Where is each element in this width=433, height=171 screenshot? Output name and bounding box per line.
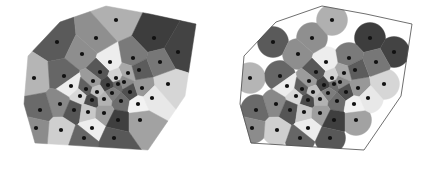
- seed-point: [82, 136, 86, 140]
- seed-point: [86, 110, 90, 114]
- seed-point: [296, 52, 300, 56]
- seed-point: [55, 40, 59, 44]
- seed-point: [278, 74, 282, 78]
- seed-point: [310, 36, 314, 40]
- seed-point: [275, 128, 279, 132]
- seed-point: [285, 84, 289, 88]
- seed-point: [392, 50, 396, 54]
- seed-point: [34, 126, 38, 130]
- seed-point: [150, 96, 154, 100]
- seed-point: [332, 82, 336, 86]
- seed-point: [116, 118, 120, 122]
- seed-point: [298, 136, 302, 140]
- seed-point: [128, 90, 132, 94]
- seed-point: [69, 84, 73, 88]
- seed-point: [302, 110, 306, 114]
- seed-point: [248, 76, 252, 80]
- seed-point: [288, 108, 292, 112]
- seed-point: [318, 111, 322, 115]
- voronoi-disks-canvas: [216, 0, 433, 171]
- seed-point: [306, 126, 310, 130]
- seed-point: [59, 128, 63, 132]
- seed-point: [158, 60, 162, 64]
- seed-point: [62, 74, 66, 78]
- seed-point: [330, 18, 334, 22]
- seed-point: [136, 102, 140, 106]
- seed-point: [324, 60, 328, 64]
- seed-point: [114, 76, 118, 80]
- seed-point: [91, 79, 95, 83]
- clipped-cell-group: [241, 6, 409, 148]
- seed-point: [354, 118, 358, 122]
- seed-point: [102, 111, 106, 115]
- seed-point: [335, 99, 339, 103]
- seed-point: [300, 87, 304, 91]
- seed-point: [131, 56, 135, 60]
- seed-point: [382, 82, 386, 86]
- seed-point: [112, 136, 116, 140]
- seed-point: [254, 108, 258, 112]
- seed-point: [342, 71, 346, 75]
- seed-point: [347, 56, 351, 60]
- seed-point: [353, 68, 357, 72]
- seed-point: [366, 96, 370, 100]
- seed-point: [80, 52, 84, 56]
- seed-point: [122, 80, 126, 84]
- seed-point: [374, 60, 378, 64]
- seed-point: [271, 40, 275, 44]
- seed-point: [98, 70, 102, 74]
- seed-point: [352, 102, 356, 106]
- clipped-voronoi-cell: [244, 117, 266, 144]
- seed-point: [294, 94, 298, 98]
- seed-point: [138, 118, 142, 122]
- seed-point: [95, 90, 99, 94]
- seed-point: [166, 82, 170, 86]
- seed-point: [338, 80, 342, 84]
- seed-point: [274, 102, 278, 106]
- seed-point: [356, 86, 360, 90]
- seed-point: [94, 36, 98, 40]
- seed-point: [330, 76, 334, 80]
- clipped-voronoi-cell: [345, 111, 372, 136]
- seed-point: [32, 76, 36, 80]
- seed-point: [152, 36, 156, 40]
- seed-point: [328, 136, 332, 140]
- seed-point: [344, 90, 348, 94]
- seed-point: [311, 90, 315, 94]
- panel-voronoi-disks: [216, 0, 433, 171]
- seed-point: [176, 50, 180, 54]
- voronoi-cell-group: [24, 6, 196, 150]
- voronoi-figure: [0, 0, 433, 171]
- seed-point: [90, 126, 94, 130]
- seed-point: [137, 68, 141, 72]
- seed-point: [322, 83, 326, 87]
- seed-point: [84, 87, 88, 91]
- voronoi-full-canvas: [0, 0, 216, 171]
- seed-point: [106, 83, 110, 87]
- seed-point: [119, 99, 123, 103]
- seed-point: [108, 60, 112, 64]
- clipped-voronoi-cell: [241, 63, 265, 94]
- seed-point: [140, 86, 144, 90]
- seed-point: [332, 118, 336, 122]
- voronoi-cell: [28, 117, 50, 144]
- seed-point: [38, 108, 42, 112]
- seed-point: [307, 79, 311, 83]
- seed-point: [102, 97, 106, 101]
- seed-point: [116, 82, 120, 86]
- seed-point: [72, 108, 76, 112]
- seed-point: [368, 36, 372, 40]
- panel-voronoi-full: [0, 0, 216, 171]
- seed-point: [126, 71, 130, 75]
- seed-point: [58, 102, 62, 106]
- seed-point: [318, 97, 322, 101]
- seed-point: [250, 126, 254, 130]
- seed-point: [110, 91, 114, 95]
- seed-point: [306, 98, 310, 102]
- seed-point: [90, 98, 94, 102]
- seed-point: [326, 91, 330, 95]
- seed-point: [114, 18, 118, 22]
- seed-point: [314, 70, 318, 74]
- seed-point: [78, 94, 82, 98]
